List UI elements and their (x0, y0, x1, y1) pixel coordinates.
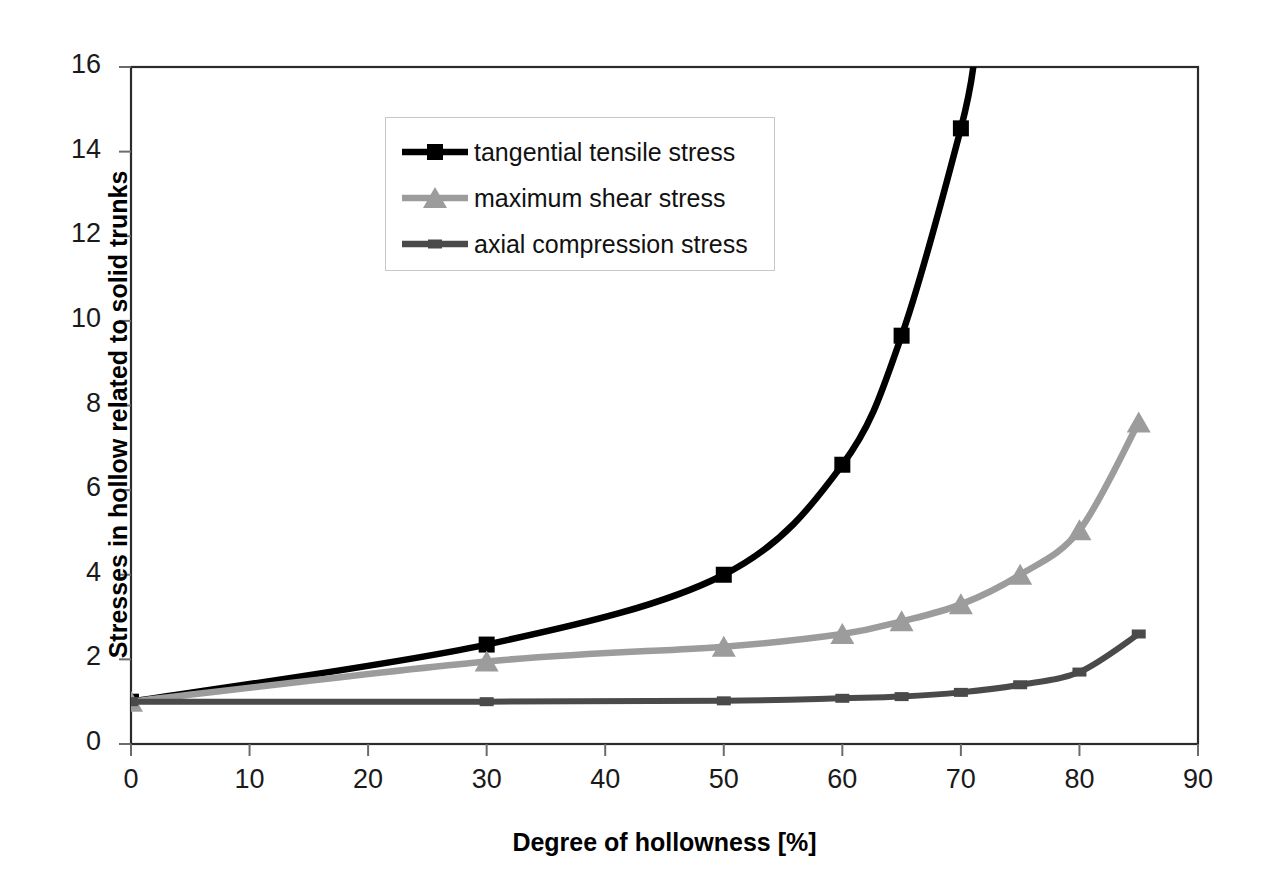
y-tick-label: 4 (41, 557, 101, 588)
y-axis-title: Stresses in hollow related to solid trun… (104, 65, 133, 765)
legend-marker-dash-icon (400, 229, 470, 259)
x-tick-label: 40 (570, 764, 640, 795)
x-tick-label: 20 (333, 764, 403, 795)
x-tick-label: 0 (96, 764, 166, 795)
y-tick-label: 16 (41, 49, 101, 80)
x-tick-label: 70 (926, 764, 996, 795)
marker-dash (1013, 680, 1027, 689)
marker-triangle (1127, 411, 1151, 432)
y-tick-label: 8 (41, 388, 101, 419)
chart-figure: Stresses in hollow related to solid trun… (0, 0, 1261, 891)
marker-square (479, 637, 495, 653)
y-tick-label: 2 (41, 641, 101, 672)
marker-dash (954, 688, 968, 697)
marker-square (894, 328, 910, 344)
legend-item[interactable]: axial compression stress (400, 222, 748, 266)
legend-label: axial compression stress (474, 230, 748, 259)
x-tick-label: 50 (689, 764, 759, 795)
x-tick-label: 10 (215, 764, 285, 795)
marker-dash (835, 694, 849, 703)
legend-marker-triangle-icon (400, 183, 470, 213)
legend-item[interactable]: tangential tensile stress (400, 130, 735, 174)
x-tick-label: 60 (807, 764, 877, 795)
marker-dash (1132, 629, 1146, 638)
marker-dash (1072, 668, 1086, 677)
x-tick-label: 30 (452, 764, 522, 795)
x-tick-label: 90 (1163, 764, 1233, 795)
series-line-1 (131, 422, 1139, 701)
marker-dash (480, 697, 494, 706)
y-tick-label: 10 (41, 303, 101, 334)
marker-square (834, 457, 850, 473)
legend-item[interactable]: maximum shear stress (400, 176, 725, 220)
marker-square (716, 567, 732, 583)
y-tick-label: 14 (41, 134, 101, 165)
series-line-2 (131, 634, 1139, 702)
legend-label: tangential tensile stress (474, 138, 735, 167)
y-tick-label: 0 (41, 726, 101, 757)
chart-legend: tangential tensile stressmaximum shear s… (385, 117, 775, 271)
x-tick-label: 80 (1044, 764, 1114, 795)
legend-label: maximum shear stress (474, 184, 725, 213)
y-tick-label: 12 (41, 218, 101, 249)
marker-dash (717, 696, 731, 705)
y-tick-label: 6 (41, 472, 101, 503)
marker-dash (895, 692, 909, 701)
x-axis-title: Degree of hollowness [%] (131, 828, 1198, 857)
legend-marker-square-icon (400, 137, 470, 167)
marker-square (953, 120, 969, 136)
